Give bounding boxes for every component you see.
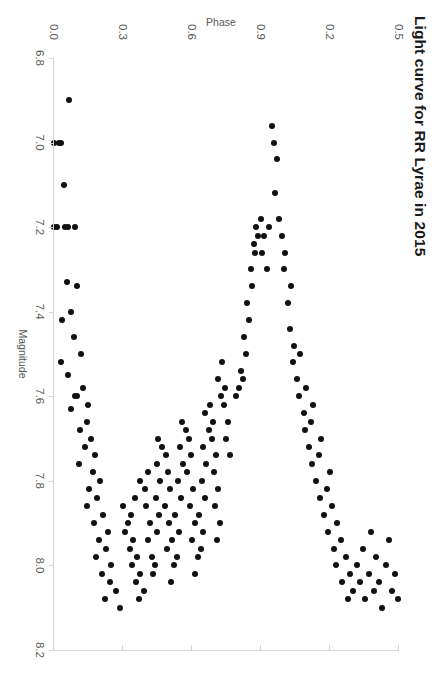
data-point [321, 512, 327, 518]
data-point [164, 546, 170, 552]
data-point [102, 596, 108, 602]
data-point [244, 300, 250, 306]
data-point [218, 393, 224, 399]
data-point [379, 605, 385, 611]
data-point [258, 216, 264, 222]
data-point [327, 469, 333, 475]
data-point [94, 495, 100, 501]
data-point [392, 571, 398, 577]
data-point [296, 393, 302, 399]
data-point [354, 562, 360, 568]
data-point [165, 469, 171, 475]
data-point [334, 520, 340, 526]
data-point [201, 444, 207, 450]
phase-tick-label: 0.2 [324, 0, 336, 40]
data-point [142, 486, 148, 492]
data-point [180, 461, 186, 467]
data-point [175, 478, 181, 484]
data-point [64, 279, 70, 285]
data-point [129, 562, 135, 568]
data-point [368, 529, 374, 535]
magnitude-tick-label: 8.0 [34, 557, 46, 573]
data-point [58, 359, 64, 365]
data-point [221, 402, 227, 408]
data-point [357, 579, 363, 585]
data-point [246, 317, 252, 323]
data-point [122, 529, 128, 535]
data-point [302, 427, 308, 433]
data-point [145, 537, 151, 543]
data-point [316, 452, 322, 458]
data-point [68, 406, 74, 412]
data-point [203, 461, 209, 467]
data-point [209, 436, 215, 442]
phase-tick [260, 645, 261, 650]
data-point [345, 596, 351, 602]
data-point [132, 495, 138, 501]
data-point [134, 554, 140, 560]
data-point [68, 309, 74, 315]
data-point [184, 469, 190, 475]
magnitude-tick [49, 565, 54, 566]
data-point [125, 520, 131, 526]
data-point [120, 503, 126, 509]
data-point [202, 410, 208, 416]
data-point [91, 520, 97, 526]
data-point [77, 427, 83, 433]
data-point [310, 402, 316, 408]
data-point [154, 461, 160, 467]
data-point [343, 554, 349, 560]
magnitude-tick [49, 58, 54, 59]
data-point [149, 554, 155, 560]
data-point [59, 317, 65, 323]
data-point [251, 241, 257, 247]
data-point [215, 376, 221, 382]
data-point [76, 461, 82, 467]
data-point [309, 461, 315, 467]
data-point [199, 478, 205, 484]
data-point [376, 579, 382, 585]
data-point [166, 520, 172, 526]
data-point [107, 579, 113, 585]
x-axis-label: Magnitude [17, 58, 29, 650]
data-point [137, 478, 143, 484]
data-point [291, 343, 297, 349]
magnitude-tick-label: 7.0 [34, 135, 46, 151]
phase-tick [191, 645, 192, 650]
data-point [303, 385, 309, 391]
data-point [117, 605, 123, 611]
data-point [259, 250, 265, 256]
data-point [143, 503, 149, 509]
phase-tick [398, 645, 399, 650]
data-point [169, 537, 175, 543]
data-point [207, 402, 213, 408]
data-point [211, 469, 217, 475]
data-point [155, 436, 161, 442]
data-point [159, 444, 165, 450]
data-point [150, 571, 156, 577]
data-point [171, 562, 177, 568]
rotated-canvas: Light curve for RR Lyrae in 2015 6.87.07… [0, 0, 435, 679]
data-point [243, 351, 249, 357]
data-point [306, 444, 312, 450]
data-point [373, 554, 379, 560]
data-point [141, 588, 147, 594]
data-point [153, 495, 159, 501]
data-point [213, 452, 219, 458]
data-point [109, 562, 115, 568]
y-axis-label: Phase [191, 16, 251, 28]
data-point [276, 216, 282, 222]
data-point [333, 562, 339, 568]
data-point [210, 419, 216, 425]
data-point [147, 520, 153, 526]
data-point [84, 503, 90, 509]
phase-tick [122, 645, 123, 650]
data-point [317, 495, 323, 501]
data-point [80, 385, 86, 391]
data-point [189, 537, 195, 543]
data-point [214, 537, 220, 543]
data-point [331, 546, 337, 552]
data-point [389, 588, 395, 594]
data-point [318, 436, 324, 442]
data-point [128, 512, 134, 518]
